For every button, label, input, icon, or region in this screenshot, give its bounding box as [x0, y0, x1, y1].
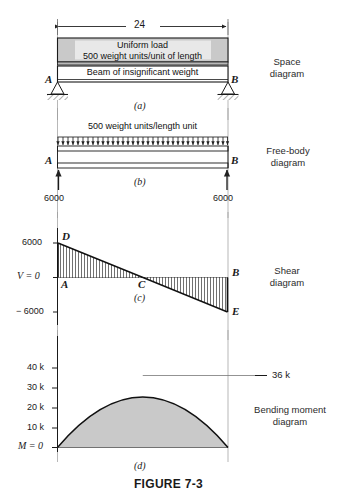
moment-tick-label-20k: 20 k	[27, 403, 44, 412]
fbd-load-label: 500 weight units/length unit	[57, 122, 228, 131]
shear-point-d: D	[62, 231, 70, 242]
moment-tick-label-30k: 30 k	[27, 383, 44, 392]
moment-diagram-note-line1: Bending moment	[244, 404, 336, 417]
shear-axis-label-bottom: − 6000	[16, 307, 44, 316]
uniform-load-caption-line1: Uniform load	[57, 41, 228, 50]
moment-tick-label-10k: 10 k	[27, 423, 44, 432]
moment-tick-label-40k: 40 k	[27, 363, 44, 372]
distributed-load-arrows	[58, 137, 229, 145]
shear-point-c: C	[138, 279, 145, 290]
reaction-value-left: 6000	[44, 194, 64, 203]
moment-diagram-note-line2: diagram	[244, 416, 336, 429]
shear-diagram-note-line2: diagram	[252, 277, 322, 290]
shear-point-e: E	[232, 306, 239, 317]
space-diagram-note-line1: Space	[252, 56, 322, 69]
shear-point-a: A	[61, 279, 68, 290]
shear-axis-label-top: 6000	[22, 238, 42, 247]
space-support-label-a: A	[45, 74, 52, 85]
free-body-note-line2: diagram	[248, 157, 328, 170]
reaction-value-right: 6000	[213, 194, 233, 203]
panel-tag-d: (d)	[134, 461, 146, 471]
shear-point-b: B	[232, 267, 239, 278]
fbd-node-label-a: A	[45, 155, 52, 166]
moment-curve-area	[58, 397, 229, 448]
panel-tag-b: (b)	[134, 177, 146, 187]
moment-peak-annotation: 36 k	[272, 370, 290, 380]
panel-tag-c: (c)	[134, 293, 145, 303]
shear-positive-region	[58, 243, 143, 278]
figure-caption: FIGURE 7-3	[0, 478, 337, 490]
space-diagram-note-line2: diagram	[252, 68, 322, 81]
panel-tag-a: (a)	[134, 101, 146, 111]
fbd-node-label-b: B	[231, 155, 238, 166]
free-body-beam	[58, 146, 229, 168]
moment-tick-label-zero: M = 0	[18, 441, 43, 451]
span-dimension-label: 24	[134, 20, 145, 30]
beam-weight-caption: Beam of insignificant weight	[57, 68, 228, 77]
projection-guides	[58, 22, 229, 462]
shear-axis-label-zero: V = 0	[17, 271, 40, 281]
figure-7-3: 24 Uniform load 500 weight units/unit of…	[0, 0, 337, 499]
shear-negative-region	[143, 278, 228, 313]
uniform-load-caption-line2: 500 weight units/unit of length	[57, 52, 228, 61]
free-body-note-line1: Free-body	[248, 145, 328, 158]
shear-diagram-note-line1: Shear	[252, 265, 322, 278]
space-support-label-b: B	[231, 74, 238, 85]
